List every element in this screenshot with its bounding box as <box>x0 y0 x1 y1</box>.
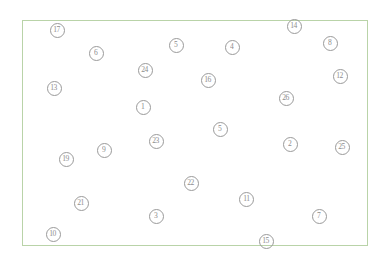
marker-13[interactable]: 13 <box>47 81 62 96</box>
marker-12[interactable]: 12 <box>333 69 348 84</box>
marker-26[interactable]: 26 <box>279 91 294 106</box>
marker-6[interactable]: 6 <box>89 46 104 61</box>
marker-19[interactable]: 19 <box>59 152 74 167</box>
marker-15[interactable]: 15 <box>259 234 274 249</box>
marker-label: 8 <box>328 39 331 47</box>
marker-label: 3 <box>154 212 157 220</box>
marker-9[interactable]: 9 <box>97 143 112 158</box>
marker-4[interactable]: 4 <box>225 40 240 55</box>
marker-label: 1 <box>141 103 144 111</box>
marker-label: 17 <box>54 26 61 34</box>
marker-label: 11 <box>243 195 250 203</box>
marker-14[interactable]: 14 <box>287 19 302 34</box>
marker-17[interactable]: 17 <box>50 23 65 38</box>
marker-label: 2 <box>288 140 291 148</box>
marker-5[interactable]: 5 <box>213 122 228 137</box>
marker-label: 26 <box>283 94 290 102</box>
marker-7[interactable]: 7 <box>312 209 327 224</box>
marker-5[interactable]: 5 <box>169 38 184 53</box>
marker-label: 13 <box>51 84 58 92</box>
marker-label: 24 <box>142 66 149 74</box>
marker-23[interactable]: 23 <box>149 134 164 149</box>
marker-16[interactable]: 16 <box>201 73 216 88</box>
diagram-canvas: 1765414824161213261523225919221121371015 <box>0 0 392 271</box>
marker-1[interactable]: 1 <box>136 100 151 115</box>
marker-8[interactable]: 8 <box>323 36 338 51</box>
marker-22[interactable]: 22 <box>184 176 199 191</box>
marker-3[interactable]: 3 <box>149 209 164 224</box>
marker-label: 23 <box>153 137 160 145</box>
marker-label: 14 <box>291 22 298 30</box>
marker-label: 10 <box>50 230 57 238</box>
marker-2[interactable]: 2 <box>283 137 298 152</box>
marker-label: 4 <box>230 43 233 51</box>
marker-label: 12 <box>337 72 344 80</box>
marker-24[interactable]: 24 <box>138 63 153 78</box>
marker-label: 5 <box>218 125 221 133</box>
marker-label: 16 <box>205 76 212 84</box>
marker-21[interactable]: 21 <box>74 196 89 211</box>
marker-label: 15 <box>263 237 270 245</box>
marker-label: 19 <box>63 155 70 163</box>
marker-label: 22 <box>188 179 195 187</box>
marker-11[interactable]: 11 <box>239 192 254 207</box>
marker-label: 7 <box>317 212 320 220</box>
marker-label: 5 <box>174 41 177 49</box>
marker-label: 25 <box>339 143 346 151</box>
marker-label: 6 <box>94 49 97 57</box>
marker-10[interactable]: 10 <box>46 227 61 242</box>
marker-label: 21 <box>78 199 85 207</box>
marker-label: 9 <box>102 146 105 154</box>
marker-25[interactable]: 25 <box>335 140 350 155</box>
